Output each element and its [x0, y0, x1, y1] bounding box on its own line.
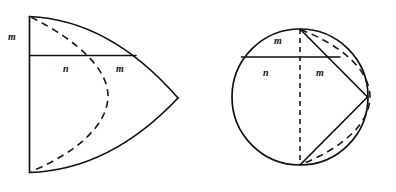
right-figure-label-n-mid: n	[263, 68, 269, 78]
diagram-root: m n m m n m	[0, 0, 396, 192]
right-figure-group	[232, 29, 370, 165]
left-figure-label-m-top: m	[8, 32, 16, 42]
right-figure-dashed-arc	[301, 30, 371, 165]
left-figure-label-n-mid: n	[63, 64, 69, 74]
left-figure-upper-arc	[30, 17, 179, 99]
diagram-canvas	[0, 0, 396, 192]
right-figure-upper-segment	[301, 30, 368, 98]
left-figure-label-m-mid: m	[116, 64, 124, 74]
left-figure-group	[30, 17, 179, 173]
left-figure-dashed-arc	[31, 17, 108, 172]
right-figure-label-m-mid: m	[316, 68, 324, 78]
right-figure-lower-segment	[301, 97, 368, 165]
right-figure-label-m-top: m	[274, 36, 282, 46]
